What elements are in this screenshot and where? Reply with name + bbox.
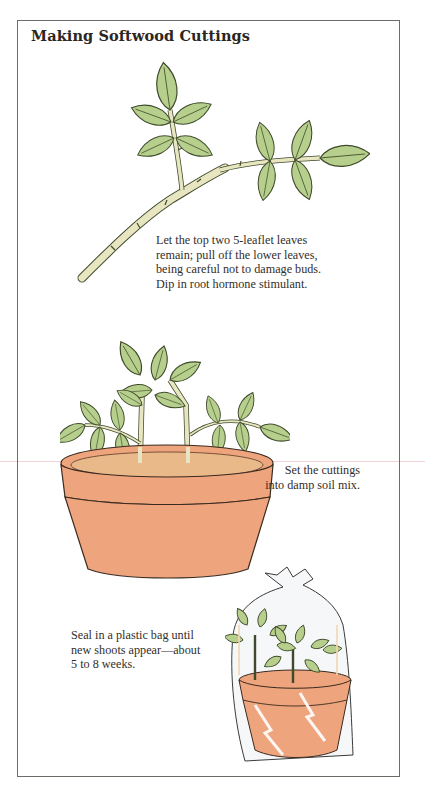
step-1-caption: Let the top two 5-leaflet leaves remain;… bbox=[156, 233, 356, 291]
caption-line: being careful not to damage buds. bbox=[156, 262, 356, 277]
cuttings-in-pot-icon bbox=[60, 335, 290, 585]
step-3-caption: Seal in a plastic bag until new shoots a… bbox=[71, 628, 221, 672]
step-2-caption: Set the cuttings into damp soil mix. bbox=[250, 463, 360, 492]
page-title: Making Softwood Cuttings bbox=[31, 27, 250, 44]
caption-line: new shoots appear—about bbox=[71, 643, 221, 658]
pot-in-plastic-bag-icon bbox=[225, 565, 365, 770]
caption-line: 5 to 8 weeks. bbox=[71, 657, 221, 672]
caption-line: Let the top two 5-leaflet leaves bbox=[156, 233, 356, 248]
caption-line: Dip in root hormone stimulant. bbox=[156, 277, 356, 292]
caption-line: Seal in a plastic bag until bbox=[71, 628, 221, 643]
caption-line: remain; pull off the lower leaves, bbox=[156, 248, 356, 263]
caption-line: Set the cuttings bbox=[250, 463, 360, 478]
caption-line: into damp soil mix. bbox=[250, 478, 360, 493]
